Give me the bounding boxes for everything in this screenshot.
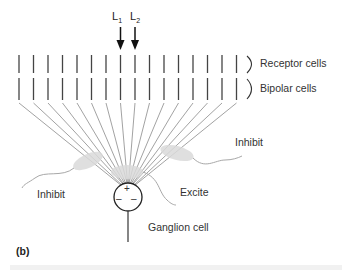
ganglion-surround-minus-right: – [131,193,137,204]
receptor-cells-label: Receptor cells [260,57,327,69]
panel-label: (b) [16,245,29,257]
inhibit-right-label: Inhibit [235,136,263,148]
bipolar-cells [19,78,237,100]
ganglion-surround-minus-left: – [116,193,122,204]
receptor-bracket [247,56,252,73]
bipolar-bracket [247,79,252,99]
receptive-field-diagram: L1 L2 Receptor cells Bipolar cells Inhib… [0,0,342,270]
inhibitory-interneuron-right [159,142,242,164]
bottom-divider [10,265,342,270]
receptor-cells [19,55,237,73]
inhibitory-interneuron-left [22,148,105,188]
ganglion-cell-label: Ganglion cell [148,221,209,233]
ganglion-center-plus: + [124,183,130,194]
light-label-l2: L2 [130,10,140,22]
inhibit-left-label: Inhibit [37,188,65,200]
excite-label: Excite [180,186,209,198]
arrow-down-icon-l1 [117,27,125,50]
light-label-l1: L1 [112,10,122,22]
arrow-down-icon-l2 [131,27,139,50]
bipolar-cells-label: Bipolar cells [260,82,317,94]
